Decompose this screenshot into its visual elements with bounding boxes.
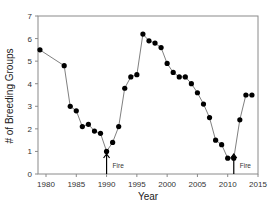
data-point	[62, 63, 67, 68]
data-point	[171, 70, 176, 75]
data-point	[128, 74, 133, 79]
data-point	[80, 124, 85, 129]
data-point	[152, 40, 157, 45]
data-point	[219, 142, 224, 147]
data-point	[249, 92, 254, 97]
data-point	[225, 156, 230, 161]
x-tick-label: 1990	[98, 180, 116, 189]
x-tick-label: 2000	[158, 180, 176, 189]
x-tick-label: 2005	[189, 180, 207, 189]
y-tick-label: 0	[28, 170, 33, 179]
data-point	[140, 31, 145, 36]
data-point	[110, 140, 115, 145]
x-tick-label: 1995	[128, 180, 146, 189]
data-point	[146, 38, 151, 43]
data-point	[201, 101, 206, 106]
data-point	[177, 74, 182, 79]
fire-annotation-label: Fire	[113, 162, 125, 169]
data-point	[74, 108, 79, 113]
data-point	[116, 124, 121, 129]
data-point	[37, 47, 42, 52]
x-axis-label: Year	[138, 191, 159, 202]
y-tick-label: 2	[28, 125, 33, 134]
data-point	[98, 131, 103, 136]
y-tick-label: 5	[28, 57, 33, 66]
data-point	[243, 92, 248, 97]
data-point	[86, 122, 91, 127]
y-tick-label: 3	[28, 102, 33, 111]
data-series	[37, 31, 254, 160]
y-axis-label: # of Breeding Groups	[4, 48, 15, 143]
data-point	[134, 72, 139, 77]
data-point	[189, 81, 194, 86]
y-tick-label: 4	[28, 80, 33, 89]
data-point	[207, 115, 212, 120]
data-point	[92, 129, 97, 134]
x-tick-label: 1980	[37, 180, 55, 189]
data-point	[165, 61, 170, 66]
y-tick-label: 6	[28, 35, 33, 44]
data-point	[213, 138, 218, 143]
breeding-groups-chart: 0123456719801985199019952000200520102015…	[0, 0, 277, 212]
series-line	[40, 34, 252, 158]
x-tick-label: 1985	[67, 180, 85, 189]
y-tick-label: 1	[28, 147, 33, 156]
fire-annotation-label: Fire	[240, 162, 252, 169]
data-point	[68, 104, 73, 109]
data-point	[195, 90, 200, 95]
data-point	[158, 45, 163, 50]
x-tick-label: 2015	[249, 180, 267, 189]
data-point	[183, 74, 188, 79]
x-tick-label: 2010	[219, 180, 237, 189]
y-tick-label: 7	[28, 12, 33, 21]
data-point	[237, 117, 242, 122]
data-point	[122, 86, 127, 91]
